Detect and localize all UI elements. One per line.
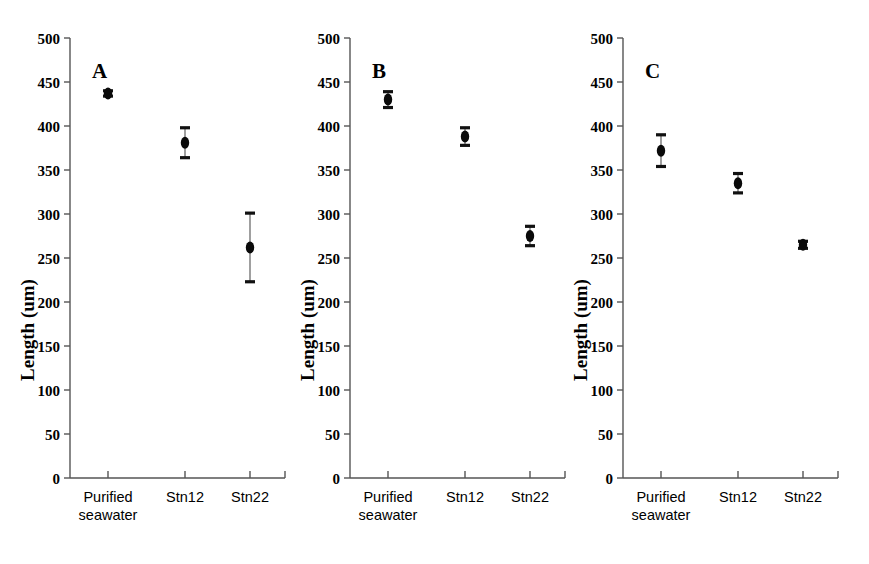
x-category-label-line2: seawater [359,507,418,523]
y-tick-label: 200 [38,295,61,311]
x-category-label: Stn22 [231,489,269,505]
chart-panel-a: 050100150200250300350400450500Length (um… [0,0,290,564]
data-point-marker [526,230,534,242]
data-point-marker [104,87,112,99]
data-point-marker [799,239,807,251]
y-axis-title: Length (um) [570,279,592,381]
data-point-group [525,226,535,245]
y-tick-label: 500 [38,31,61,47]
y-tick-label: 200 [318,295,341,311]
y-tick-label: 250 [591,251,614,267]
data-point-group [103,87,113,99]
y-tick-label: 350 [591,163,614,179]
data-point-marker [181,137,189,149]
data-point-marker [461,131,469,143]
y-tick-label: 50 [598,427,613,443]
chart-panel-b: 050100150200250300350400450500Length (um… [280,0,570,564]
y-tick-label: 450 [318,75,341,91]
y-tick-label: 100 [591,383,614,399]
figure-container: 050100150200250300350400450500Length (um… [0,0,869,564]
x-category-label: Stn22 [511,489,549,505]
y-tick-label: 450 [591,75,614,91]
y-tick-label: 300 [318,207,341,223]
y-tick-label: 350 [38,163,61,179]
y-tick-label: 0 [53,471,61,487]
y-axis-title: Length (um) [297,279,319,381]
x-category-label: Purified [363,489,412,505]
data-point-group [180,128,190,158]
plot-svg-b: 050100150200250300350400450500Length (um… [280,0,570,564]
y-tick-label: 50 [45,427,60,443]
data-point-marker [246,241,254,253]
data-point-group [798,239,808,251]
plot-svg-a: 050100150200250300350400450500Length (um… [0,0,290,564]
y-tick-label: 450 [38,75,61,91]
panel-letter: B [372,59,386,83]
y-tick-label: 400 [38,119,61,135]
y-tick-label: 200 [591,295,614,311]
data-point-group [245,213,255,282]
y-tick-label: 300 [38,207,61,223]
panel-letter: C [645,59,660,83]
x-category-label: Stn12 [166,489,204,505]
data-point-group [460,128,470,146]
x-category-label: Stn12 [446,489,484,505]
y-tick-label: 150 [318,339,341,355]
x-category-label: Purified [636,489,685,505]
data-point-marker [734,177,742,189]
data-point-marker [384,94,392,106]
y-tick-label: 250 [38,251,61,267]
y-tick-label: 50 [325,427,340,443]
data-point-group [733,174,743,193]
y-tick-label: 350 [318,163,341,179]
y-tick-label: 250 [318,251,341,267]
data-point-marker [657,145,665,157]
plot-svg-c: 050100150200250300350400450500Length (um… [553,0,843,564]
panel-letter: A [92,59,108,83]
y-tick-label: 100 [318,383,341,399]
x-category-label-line2: seawater [79,507,138,523]
y-tick-label: 0 [606,471,614,487]
x-category-label: Stn12 [719,489,757,505]
x-category-label-line2: seawater [632,507,691,523]
y-tick-label: 300 [591,207,614,223]
x-category-label: Stn22 [784,489,822,505]
y-tick-label: 150 [38,339,61,355]
y-tick-label: 500 [318,31,341,47]
y-tick-label: 100 [38,383,61,399]
chart-panel-c: 050100150200250300350400450500Length (um… [553,0,843,564]
data-point-group [656,135,666,167]
data-point-group [383,92,393,108]
y-tick-label: 150 [591,339,614,355]
y-axis-title: Length (um) [17,279,39,381]
x-category-label: Purified [83,489,132,505]
y-tick-label: 400 [591,119,614,135]
y-tick-label: 0 [333,471,341,487]
y-tick-label: 400 [318,119,341,135]
y-tick-label: 500 [591,31,614,47]
